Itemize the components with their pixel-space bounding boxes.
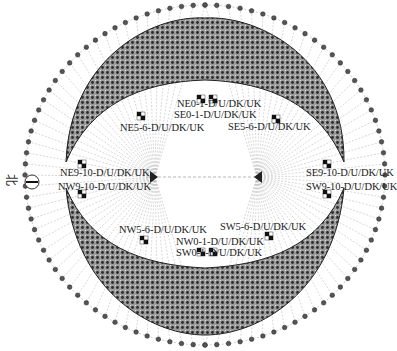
label-sw01: SW0-1-D/U/DK/UK xyxy=(176,247,262,258)
north-label: 北 xyxy=(6,171,18,188)
label-se910: SE9-10-D/U/DK/UK xyxy=(306,167,394,178)
label-se01: SE0-1-D/U/DK/UK xyxy=(174,109,257,120)
label-nw910: NW9-10-D/U/DK/UK xyxy=(58,181,151,192)
label-ne910: NE9-10-D/U/DK/UK xyxy=(60,167,149,178)
label-ne56: NE5-6-D/U/DK/UK xyxy=(120,122,204,133)
upper-band xyxy=(66,18,344,162)
label-ne01: NE0-1-D/U/DK/UK xyxy=(177,98,261,109)
compass-north-icon xyxy=(25,175,39,189)
label-sw56: SW5-6-D/U/DK/UK xyxy=(220,221,306,232)
label-sw910: SW9-10-D/U/DK/UK xyxy=(306,181,397,192)
label-nw01: NW0-1-D/U/DK/UK xyxy=(176,236,264,247)
lower-band xyxy=(66,188,344,335)
label-nw56: NW5-6-D/U/DK/UK xyxy=(119,224,207,235)
label-se56: SE5-6-D/U/DK/UK xyxy=(228,121,311,132)
